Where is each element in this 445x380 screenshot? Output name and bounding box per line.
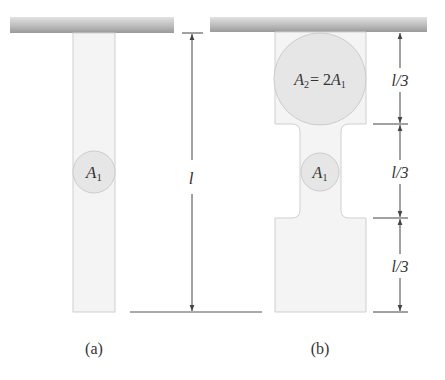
segment-label-3: l/3 <box>392 258 409 275</box>
panel-b: A2= 2A1 A1 l/3 l/3 l/3 (b) <box>210 17 427 358</box>
diagram-canvas: A1 l (a) A2= 2A1 A1 l/3 l/3 <box>0 0 445 380</box>
area-label-a2: A2= 2A1 <box>293 71 346 90</box>
caption-a: (a) <box>85 340 103 358</box>
segment-label-1: l/3 <box>392 72 409 89</box>
panel-a: A1 l (a) <box>10 17 262 358</box>
length-label-l: l <box>189 169 194 188</box>
caption-b: (b) <box>311 340 330 358</box>
segment-label-2: l/3 <box>392 164 409 181</box>
ceiling-b <box>210 17 427 32</box>
ceiling-a <box>10 17 174 33</box>
